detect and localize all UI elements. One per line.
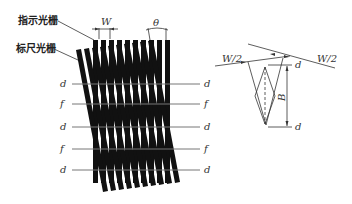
indicator-grating-label: 指示光栅 [18,14,58,26]
fringe-label-right-0: d [204,78,210,89]
fringe-label-left-0: d [60,78,66,89]
fringe-label-right-2: d [204,121,210,132]
fringe-label-right-3: f [203,143,210,154]
b-label: B [276,94,287,102]
theta-label: θ [153,17,159,28]
fringe-label-left-1: f [59,98,66,109]
d-bottom-right-label: d [295,121,301,132]
fringe-label-left-2: d [60,121,66,132]
w-dimension [92,28,118,40]
d-top-right-label: d [295,59,301,70]
theta-dimension [146,28,168,40]
moire-fringe-diagram: d f d f d d f d f d 指示光栅 标尺光栅 W θ [0,0,352,204]
scale-grating-label: 标尺光栅 [15,42,56,54]
w-half-right-label: W/2 [317,53,337,64]
fringe-label-right-1: f [203,98,210,109]
fringe-label-left-4: d [60,164,66,175]
fringe-label-right-4: d [204,164,210,175]
fringe-label-left-3: f [59,143,66,154]
w-label: W [101,16,112,27]
w-half-left-label: W/2 [222,53,242,64]
